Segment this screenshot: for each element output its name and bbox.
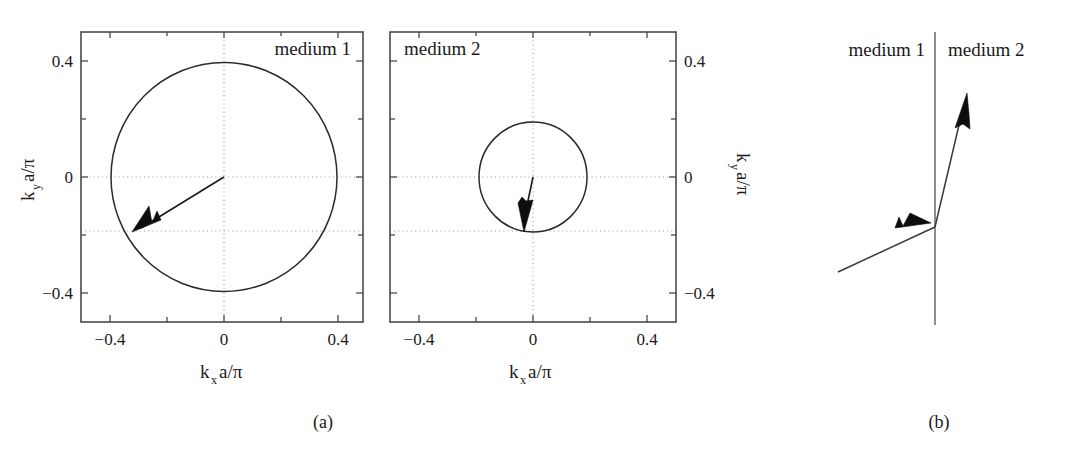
xtick-label-04-left: 0.4 — [327, 330, 349, 349]
xaxis-title-left: k x a/π — [200, 361, 243, 387]
medium-label-right: medium 2 — [948, 39, 1025, 60]
subcaption-a: (a) — [313, 412, 333, 433]
medium-2-panel: medium 2 −0.4 0 0.4 0.4 0 −0.4 k x a/π k… — [390, 32, 754, 387]
xaxis-title-sub-mid: x — [520, 373, 526, 387]
ytick-label-neg04-mid: −0.4 — [684, 284, 715, 303]
yaxis-title-sub-mid: y — [728, 164, 742, 170]
xtick-label-0-left: 0 — [220, 330, 229, 349]
xaxis-title-base-left: k — [200, 361, 210, 382]
xaxis-title-base-mid: k — [509, 361, 519, 382]
panel-title-medium-2: medium 2 — [404, 38, 481, 59]
yaxis-title-left: k y a/π — [17, 158, 43, 201]
incident-ray — [838, 227, 935, 272]
refraction-panel: medium 1 medium 2 — [838, 32, 1025, 325]
xtick-label-neg04-mid: −0.4 — [404, 330, 435, 349]
refracted-ray-arrow-head — [955, 93, 970, 129]
medium-label-left: medium 1 — [848, 39, 925, 60]
xtick-label-neg04-left: −0.4 — [95, 330, 126, 349]
xaxis-title-rest-mid: a/π — [528, 361, 552, 382]
xtick-label-04-mid: 0.4 — [636, 330, 658, 349]
figure-canvas: medium 1 −0.4 0 0.4 0.4 0 −0.4 k x a/π k… — [0, 0, 1088, 456]
xaxis-title-sub-left: x — [211, 373, 217, 387]
ytick-label-0-mid: 0 — [684, 168, 693, 187]
wavevector-arrow-head-mid — [518, 197, 533, 232]
yaxis-title-base-left: k — [17, 191, 38, 201]
wavevector-arrow-head-left — [132, 206, 161, 232]
xtick-label-0-mid: 0 — [529, 330, 538, 349]
ytick-label-04-mid: 0.4 — [684, 52, 706, 71]
yaxis-title-base-mid: k — [733, 153, 754, 163]
panel-title-medium-1: medium 1 — [274, 38, 351, 59]
xaxis-title-rest-left: a/π — [219, 361, 243, 382]
figure-root: medium 1 −0.4 0 0.4 0.4 0 −0.4 k x a/π k… — [0, 0, 1088, 456]
xaxis-title-mid: k x a/π — [509, 361, 552, 387]
incident-ray-arrow-head — [895, 213, 931, 228]
yaxis-title-rest-left: a/π — [17, 158, 38, 182]
ytick-label-04-left: 0.4 — [52, 52, 74, 71]
yaxis-title-mid: k y a/π — [728, 153, 754, 196]
ytick-label-neg04-left: −0.4 — [42, 284, 73, 303]
yaxis-title-sub-left: y — [29, 184, 43, 190]
subcaption-b: (b) — [929, 412, 950, 433]
yaxis-title-rest-mid: a/π — [733, 172, 754, 196]
medium-1-panel: medium 1 −0.4 0 0.4 0.4 0 −0.4 k x a/π k… — [17, 32, 363, 387]
ytick-label-0-left: 0 — [65, 168, 74, 187]
